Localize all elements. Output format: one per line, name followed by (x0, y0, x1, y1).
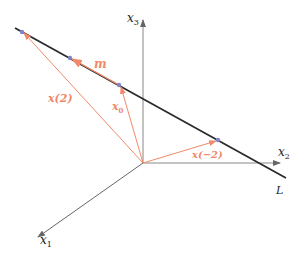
line-in-3d-diagram: x3 x2 x1 L m x0 x(2) x(−2) (0, 0, 300, 259)
vector-m-label: m (94, 57, 107, 71)
vector-x0-label: x0 (111, 100, 124, 115)
x2-axis-label: x2 (278, 145, 290, 161)
axes (38, 20, 280, 237)
x3-axis-label: x3 (127, 11, 139, 27)
point-t0 (117, 83, 121, 87)
x1-axis-label: x1 (40, 233, 52, 249)
vector-x2-label: x(2) (47, 92, 73, 105)
x1-axis (38, 163, 143, 237)
vector-x2 (24, 33, 143, 163)
vector-xneg2-label: x(−2) (191, 149, 223, 160)
point-t2 (20, 30, 24, 34)
point-t1 (68, 56, 72, 60)
line-L-label: L (275, 184, 283, 197)
point-tneg2 (216, 138, 220, 142)
